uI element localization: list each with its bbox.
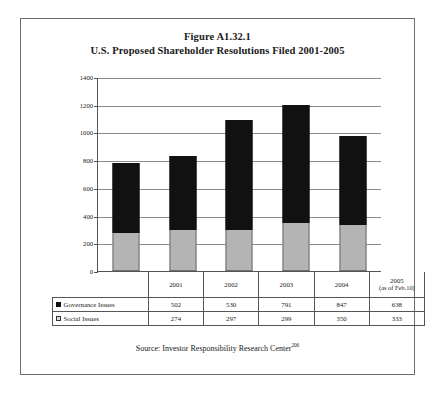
table-cell-value: 297 (204, 312, 259, 326)
y-axis-label: 800 (83, 158, 93, 165)
table-row: Social Issues274297299350333 (53, 312, 425, 326)
bar-segment-governance (226, 120, 253, 230)
source-footnote-marker: 206 (291, 342, 299, 348)
legend-row-label: Governance Issues (53, 298, 149, 312)
source-note: Source: Investor Responsibility Research… (21, 342, 414, 353)
table-header-year-2002: 2002 (204, 272, 259, 298)
bar-segment-social (283, 223, 310, 272)
table-row: Governance Issues502530791847638 (53, 298, 425, 312)
y-axis-label: 1400 (80, 75, 93, 82)
bar-segment-social (169, 230, 196, 271)
bar-segment-governance (283, 105, 310, 222)
table-header-year-2004: 2004 (314, 272, 369, 298)
figure-frame: Figure A1.32.1 U.S. Proposed Shareholder… (20, 18, 415, 375)
stacked-bar (283, 105, 310, 271)
table-header-year-note: (as of Feb.10) (370, 284, 424, 292)
bar-slot (268, 78, 325, 271)
chart-data-table: 20012002200320042005(as of Feb.10)Govern… (52, 272, 425, 326)
bar-slot (211, 78, 268, 271)
bar-slot (98, 78, 155, 271)
table-cell-value: 299 (259, 312, 314, 326)
y-axis-label: 200 (83, 241, 93, 248)
table-corner-cell (53, 272, 149, 298)
legend-row-label: Social Issues (53, 312, 149, 326)
y-axis-label: 1200 (80, 102, 93, 109)
table-cell-value: 530 (204, 298, 259, 312)
stacked-bar (169, 156, 196, 271)
outlined-square-icon (56, 316, 61, 321)
chart-axes: 0200400600800100012001400 (97, 78, 381, 272)
stacked-bar (226, 120, 253, 271)
table-cell-value: 791 (259, 298, 314, 312)
bar-slot (324, 78, 381, 271)
stacked-bar (113, 163, 140, 271)
table-cell-value: 333 (369, 312, 424, 326)
source-text: Source: Investor Responsibility Research… (136, 344, 292, 353)
bar-segment-governance (113, 163, 140, 233)
y-axis-label: 1000 (80, 130, 93, 137)
table-cell-value: 847 (314, 298, 369, 312)
figure-title-block: Figure A1.32.1 U.S. Proposed Shareholder… (21, 30, 414, 58)
table-cell-value: 274 (148, 312, 203, 326)
table-header-year-2001: 2001 (148, 272, 203, 298)
bar-segment-governance (339, 136, 366, 224)
bar-slot (155, 78, 212, 271)
table-header-year-2005: 2005(as of Feb.10) (369, 272, 424, 298)
bar-segment-governance (169, 156, 196, 229)
bar-segment-social (226, 230, 253, 271)
y-axis-label: 400 (83, 213, 93, 220)
bar-segment-social (339, 225, 366, 271)
table-cell-value: 350 (314, 312, 369, 326)
table-cell-value: 502 (148, 298, 203, 312)
table-header-row: 20012002200320042005(as of Feb.10) (53, 272, 425, 298)
chart-bars (98, 78, 381, 271)
filled-square-icon (56, 302, 61, 307)
chart-plot-area: 0200400600800100012001400 (97, 78, 381, 272)
table-cell-value: 638 (369, 298, 424, 312)
stacked-bar (339, 136, 366, 271)
figure-number: Figure A1.32.1 (21, 30, 414, 44)
figure-title: U.S. Proposed Shareholder Resolutions Fi… (21, 44, 414, 58)
bar-segment-social (113, 233, 140, 271)
y-axis-label: 600 (83, 186, 93, 193)
table-header-year-2003: 2003 (259, 272, 314, 298)
